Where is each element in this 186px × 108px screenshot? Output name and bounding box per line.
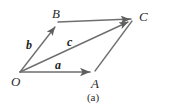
vector-label-a: a	[55, 59, 61, 71]
vector-c-arrow	[20, 22, 128, 72]
figure-caption: (a)	[0, 92, 186, 103]
vector-label-b: b	[26, 39, 32, 51]
side-BC-segment	[58, 19, 131, 22]
point-label-O: O	[11, 75, 20, 88]
point-label-B: B	[52, 7, 60, 20]
vector-label-c: c	[67, 36, 72, 48]
point-label-C: C	[139, 10, 148, 23]
point-label-A: A	[91, 77, 99, 90]
vector-parallelogram-figure: O A B C a b c (a)	[0, 0, 186, 108]
